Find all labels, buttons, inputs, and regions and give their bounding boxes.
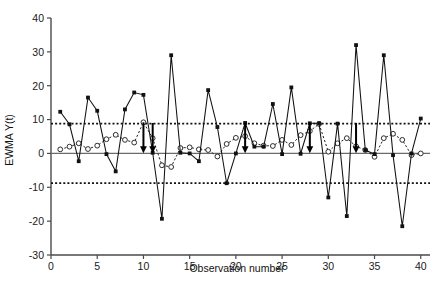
data-point-marker bbox=[95, 109, 99, 113]
data-point-marker bbox=[298, 133, 303, 138]
data-point-marker bbox=[215, 125, 219, 129]
data-point-marker bbox=[160, 217, 164, 221]
data-point-marker bbox=[179, 151, 183, 155]
data-point-marker bbox=[289, 86, 293, 90]
y-axis-tick-label: 0 bbox=[38, 147, 44, 159]
data-point-marker bbox=[77, 159, 81, 163]
data-point-marker bbox=[289, 143, 294, 148]
x-axis-tick-label: 40 bbox=[415, 260, 427, 272]
data-point-marker bbox=[419, 117, 423, 121]
data-point-marker bbox=[373, 152, 377, 156]
data-point-marker bbox=[123, 137, 128, 142]
data-point-marker bbox=[270, 144, 275, 149]
x-axis-tick-label: 5 bbox=[94, 260, 100, 272]
data-point-marker bbox=[169, 53, 173, 57]
data-point-marker bbox=[234, 152, 238, 156]
chart-canvas: -30-20-10010203040 0510152025303540 Obse… bbox=[0, 0, 444, 284]
data-point-marker bbox=[187, 145, 192, 150]
data-point-marker bbox=[58, 110, 62, 114]
data-point-marker bbox=[113, 132, 118, 137]
data-point-marker bbox=[400, 224, 404, 228]
data-point-marker bbox=[345, 214, 349, 218]
data-point-marker bbox=[206, 148, 211, 153]
data-point-marker bbox=[160, 163, 165, 168]
data-point-marker bbox=[233, 135, 238, 140]
data-point-marker bbox=[95, 143, 100, 148]
data-point-marker bbox=[68, 122, 72, 126]
data-point-marker bbox=[58, 147, 63, 152]
data-point-marker bbox=[225, 181, 229, 185]
x-axis-tick-label: 10 bbox=[138, 260, 150, 272]
data-point-marker bbox=[410, 152, 414, 156]
data-point-marker bbox=[363, 148, 367, 152]
x-axis-tick-label: 35 bbox=[369, 260, 381, 272]
data-point-marker bbox=[252, 145, 256, 149]
data-point-marker bbox=[317, 121, 321, 125]
y-axis-tick-label: 10 bbox=[32, 113, 44, 125]
data-point-marker bbox=[104, 137, 109, 142]
y-axis-tick-label: -10 bbox=[29, 181, 44, 193]
data-point-marker bbox=[354, 43, 358, 47]
x-axis-tick-label: 30 bbox=[322, 260, 334, 272]
data-point-marker bbox=[418, 151, 423, 156]
y-axis-tick-label: 40 bbox=[32, 12, 44, 24]
y-axis-tick-label: 20 bbox=[32, 80, 44, 92]
data-point-marker bbox=[132, 91, 136, 95]
x-axis-title: Observation number bbox=[189, 262, 285, 274]
data-point-marker bbox=[114, 169, 118, 173]
x-axis-tick-label: 0 bbox=[48, 260, 54, 272]
data-point-marker bbox=[123, 108, 127, 112]
data-point-marker bbox=[382, 53, 386, 57]
data-point-marker bbox=[169, 165, 174, 170]
data-point-marker bbox=[299, 152, 303, 156]
data-point-marker bbox=[344, 136, 349, 141]
data-point-marker bbox=[280, 152, 284, 156]
data-point-marker bbox=[262, 145, 266, 149]
data-point-marker bbox=[336, 122, 340, 126]
data-point-marker bbox=[86, 96, 90, 100]
y-axis-tick-label: 30 bbox=[32, 46, 44, 58]
data-point-marker bbox=[381, 136, 386, 141]
data-point-marker bbox=[197, 159, 201, 163]
data-point-marker bbox=[132, 140, 137, 145]
data-point-marker bbox=[86, 147, 91, 152]
data-point-marker bbox=[142, 93, 146, 97]
data-point-marker bbox=[105, 152, 109, 156]
data-point-marker bbox=[215, 154, 220, 159]
data-point-marker bbox=[271, 102, 275, 106]
y-axis-title: EWMA Y(t) bbox=[3, 114, 15, 166]
data-point-marker bbox=[67, 144, 72, 149]
data-point-marker bbox=[206, 88, 210, 92]
y-axis-tick-label: -30 bbox=[29, 249, 44, 261]
data-point-marker bbox=[326, 196, 330, 200]
data-point-marker bbox=[326, 149, 331, 154]
data-point-marker bbox=[188, 152, 192, 156]
data-point-marker bbox=[76, 141, 81, 146]
chart-background bbox=[0, 0, 444, 284]
ewma-control-chart: -30-20-10010203040 0510152025303540 Obse… bbox=[0, 0, 444, 284]
y-axis-tick-label: -20 bbox=[29, 215, 44, 227]
data-point-marker bbox=[224, 142, 229, 147]
data-point-marker bbox=[391, 153, 395, 157]
data-point-marker bbox=[400, 137, 405, 142]
